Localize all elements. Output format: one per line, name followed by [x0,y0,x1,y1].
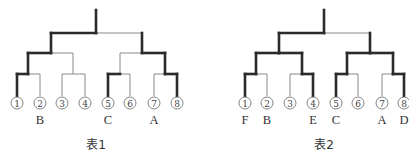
bracket-figure-1: 12B345C67A8表1 [11,10,183,152]
seed-6: 6 [352,97,364,109]
seed-5: 5 [102,97,114,109]
seed-number: 5 [105,99,111,109]
seed-number: 4 [82,99,88,109]
bracket-figure-2: 1F2B34E5C67A8D表2 [239,10,409,152]
tournament-brackets: 12B345C67A8表11F2B34E5C67A8D表2 [0,0,409,161]
team-label: D [399,113,408,127]
seed-number: 8 [401,99,407,109]
seed-1: 1 [239,97,251,109]
seed-number: 2 [264,99,270,109]
team-label: A [149,113,158,127]
seed-7: 7 [376,97,388,109]
seed-number: 6 [355,99,361,109]
seed-number: 4 [310,99,316,109]
seed-number: 5 [333,99,339,109]
seed-number: 6 [127,99,133,109]
figure-caption: 表1 [86,138,106,152]
seed-number: 1 [14,99,20,109]
seed-number: 2 [37,99,43,109]
seed-number: 8 [174,99,180,109]
team-label: C [332,113,340,127]
seed-2: 2 [34,97,46,109]
seed-number: 3 [287,99,293,109]
seed-6: 6 [124,97,136,109]
seed-8: 8 [171,97,183,109]
seed-number: 7 [151,99,157,109]
seed-3: 3 [56,97,68,109]
seed-number: 7 [379,99,385,109]
team-label: B [263,113,271,127]
seed-4: 4 [307,97,319,109]
figure-caption: 表2 [314,138,334,152]
team-label: E [309,113,317,127]
team-label: C [104,113,112,127]
seed-number: 1 [242,99,248,109]
seed-3: 3 [284,97,296,109]
seed-7: 7 [148,97,160,109]
seed-1: 1 [11,97,23,109]
team-label: A [377,113,386,127]
team-label: F [242,113,249,127]
seed-4: 4 [79,97,91,109]
team-label: B [36,113,44,127]
seed-number: 3 [59,99,65,109]
seed-2: 2 [261,97,273,109]
seed-8: 8 [398,97,409,109]
seed-5: 5 [330,97,342,109]
